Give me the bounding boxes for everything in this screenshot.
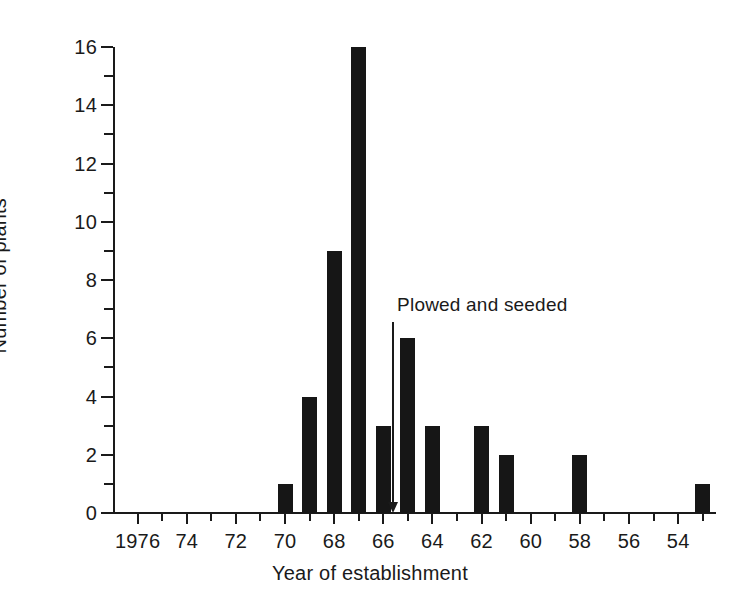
histogram-bar (376, 426, 391, 513)
x-axis-title: Year of establishment (0, 562, 740, 585)
y-axis-tick-label: 14 (74, 95, 97, 115)
x-axis-tick-major (431, 513, 433, 524)
x-axis-tick-label: 74 (175, 531, 198, 551)
y-axis-tick-major (101, 337, 113, 339)
annotation-label: Plowed and seeded (397, 294, 567, 316)
x-axis-tick-major (677, 513, 679, 524)
x-axis-tick-minor (505, 513, 507, 521)
y-axis-tick-major (101, 454, 113, 456)
histogram-bar (695, 484, 710, 513)
y-axis-tick-minor (104, 425, 113, 427)
y-axis-tick-major (101, 104, 113, 106)
x-axis-tick-label: 1976 (115, 531, 160, 551)
x-axis-tick-major (579, 513, 581, 524)
y-axis-tick-label: 12 (74, 154, 97, 174)
x-axis-tick-major (186, 513, 188, 524)
x-axis-tick-minor (358, 513, 360, 521)
annotation-arrow-head (388, 502, 398, 513)
y-axis-tick-label: 8 (86, 270, 97, 290)
x-axis-tick-minor (210, 513, 212, 521)
y-axis-tick-major (101, 221, 113, 223)
y-axis-tick-major (101, 46, 113, 48)
annotation-arrow-shaft (392, 322, 394, 503)
x-axis-tick-label: 56 (618, 531, 641, 551)
histogram-bar (278, 484, 293, 513)
x-axis-tick-label: 72 (225, 531, 248, 551)
x-axis-tick-major (628, 513, 630, 524)
y-axis-tick-label: 16 (74, 37, 97, 57)
x-axis-tick-label: 60 (519, 531, 542, 551)
x-axis-tick-minor (653, 513, 655, 521)
histogram-bar (327, 251, 342, 513)
x-axis-tick-minor (407, 513, 409, 521)
y-axis-tick-minor (104, 75, 113, 77)
x-axis-tick-major (333, 513, 335, 524)
histogram-bar (474, 426, 489, 513)
x-axis-tick-label: 58 (569, 531, 592, 551)
x-axis-tick-major (481, 513, 483, 524)
y-axis-title: Number of plants (0, 198, 11, 354)
plot-area: 024681012141619767472706866646260585654P… (113, 47, 715, 513)
annotation-arrow (392, 322, 394, 513)
y-axis-tick-label: 6 (86, 328, 97, 348)
x-axis-tick-major (137, 513, 139, 524)
x-axis-tick-label: 54 (667, 531, 690, 551)
y-axis-tick-label: 10 (74, 212, 97, 232)
y-axis-tick-minor (104, 308, 113, 310)
y-axis-tick-major (101, 512, 113, 514)
histogram-chart: Number of plants Year of establishment 0… (0, 0, 740, 610)
x-axis-tick-label: 66 (372, 531, 395, 551)
x-axis-tick-major (235, 513, 237, 524)
x-axis-tick-minor (702, 513, 704, 521)
x-axis-tick-minor (309, 513, 311, 521)
histogram-bar (499, 455, 514, 513)
histogram-bar (425, 426, 440, 513)
x-axis-tick-minor (259, 513, 261, 521)
y-axis-tick-label: 4 (86, 387, 97, 407)
y-axis-tick-minor (104, 366, 113, 368)
x-axis-tick-minor (554, 513, 556, 521)
histogram-bar (400, 338, 415, 513)
x-axis-tick-major (382, 513, 384, 524)
y-axis-tick-minor (104, 133, 113, 135)
x-axis-tick-major (284, 513, 286, 524)
histogram-bar (572, 455, 587, 513)
y-axis-tick-minor (104, 483, 113, 485)
x-axis-tick-label: 62 (470, 531, 493, 551)
histogram-bar (351, 47, 366, 513)
x-axis-tick-minor (456, 513, 458, 521)
y-axis-tick-label: 0 (86, 503, 97, 523)
y-axis-tick-major (101, 396, 113, 398)
y-axis-tick-label: 2 (86, 445, 97, 465)
x-axis-tick-minor (603, 513, 605, 521)
y-axis-tick-minor (104, 192, 113, 194)
histogram-bar (302, 397, 317, 514)
x-axis-tick-label: 70 (274, 531, 297, 551)
x-axis-tick-major (530, 513, 532, 524)
x-axis-tick-minor (161, 513, 163, 521)
y-axis-tick-major (101, 163, 113, 165)
x-axis-tick-label: 64 (421, 531, 444, 551)
y-axis-tick-minor (104, 250, 113, 252)
y-axis-tick-major (101, 279, 113, 281)
x-axis-tick-label: 68 (323, 531, 346, 551)
